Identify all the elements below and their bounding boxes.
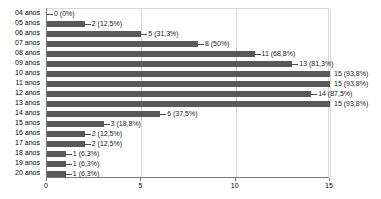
y-axis-label: 19 anos xyxy=(15,159,40,167)
bar xyxy=(47,101,330,107)
bar xyxy=(47,91,311,97)
bar-data-label: 15 (93,8%) xyxy=(333,100,368,108)
bar-row: 1 (6,3%) xyxy=(47,159,328,169)
bar xyxy=(47,171,66,177)
bar-row: 2 (12,5%) xyxy=(47,139,328,149)
bar xyxy=(47,141,85,147)
bar-row: 2 (12,5%) xyxy=(47,129,328,139)
bar xyxy=(47,61,292,67)
bar-data-label: 1 (6,3%) xyxy=(72,150,99,158)
y-axis-label: 18 anos xyxy=(15,149,40,157)
bar xyxy=(47,151,66,157)
y-axis-label: 16 anos xyxy=(15,129,40,137)
bar-data-label: 11 (68,8%) xyxy=(261,50,296,58)
y-axis-label: 08 anos xyxy=(15,49,40,57)
bar xyxy=(47,131,85,137)
bar-row: 0 (0%) xyxy=(47,9,328,19)
y-axis-label: 06 anos xyxy=(15,29,40,37)
bar xyxy=(47,161,66,167)
bar-data-label: 2 (12,5%) xyxy=(91,130,122,138)
bar-row: 14 (87,5%) xyxy=(47,89,328,99)
bar xyxy=(47,51,255,57)
y-axis-category-labels: 04 anos05 anos06 anos07 anos08 anos09 an… xyxy=(0,8,44,178)
bar-row: 1 (6,3%) xyxy=(47,169,328,179)
x-axis-tick-label: 10 xyxy=(231,181,239,190)
y-axis-label: 11 anos xyxy=(16,79,40,87)
bar-row: 15 (93,8%) xyxy=(47,69,328,79)
y-axis-label: 12 anos xyxy=(15,89,40,97)
y-axis-label: 04 anos xyxy=(15,9,40,17)
plot-area: 0 (0%)2 (12,5%)5 (31,3%)8 (50%)11 (68,8%… xyxy=(46,8,329,178)
bar-row: 5 (31,3%) xyxy=(47,29,328,39)
bar-data-label: 1 (6,3%) xyxy=(72,170,99,178)
bar-row: 15 (93,8%) xyxy=(47,99,328,109)
bar-data-label: 8 (50%) xyxy=(204,40,230,48)
x-axis-tick-label: 0 xyxy=(44,181,48,190)
x-axis-tick-label: 15 xyxy=(325,181,333,190)
bar-data-label: 6 (37,5%) xyxy=(166,110,197,118)
bar-row: 2 (12,5%) xyxy=(47,19,328,29)
y-axis-label: 13 anos xyxy=(15,99,40,107)
bar-data-label: 5 (31,3%) xyxy=(147,30,178,38)
bar-data-label: 15 (93,8%) xyxy=(333,70,368,78)
bar-data-label: 15 (93,8%) xyxy=(333,80,368,88)
bar-row: 15 (93,8%) xyxy=(47,79,328,89)
bar xyxy=(47,31,141,37)
bar xyxy=(47,81,330,87)
x-axis-tick-labels: 051015 xyxy=(0,181,381,195)
y-axis-label: 07 anos xyxy=(15,39,40,47)
y-axis-label: 14 anos xyxy=(15,109,40,117)
bar-data-label: 14 (87,5%) xyxy=(317,90,352,98)
bar-data-label: 3 (18,8%) xyxy=(110,120,141,128)
bar-row: 8 (50%) xyxy=(47,39,328,49)
y-axis-label: 17 anos xyxy=(15,139,40,147)
bar xyxy=(47,111,160,117)
bar-data-label: 2 (12,5%) xyxy=(91,20,122,28)
bar-row: 1 (6,3%) xyxy=(47,149,328,159)
y-axis-label: 20 anos xyxy=(15,169,40,177)
bar-row: 11 (68,8%) xyxy=(47,49,328,59)
bar xyxy=(47,121,104,127)
bar-rows: 0 (0%)2 (12,5%)5 (31,3%)8 (50%)11 (68,8%… xyxy=(47,9,328,177)
y-axis-label: 09 anos xyxy=(15,59,40,67)
bar-row: 13 (81,3%) xyxy=(47,59,328,69)
bar-row: 6 (37,5%) xyxy=(47,109,328,119)
y-axis-label: 05 anos xyxy=(15,19,40,27)
bar xyxy=(47,71,330,77)
bar-data-label: 13 (81,3%) xyxy=(298,60,333,68)
bar-row: 3 (18,8%) xyxy=(47,119,328,129)
bar xyxy=(47,41,198,47)
x-axis-tick-label: 5 xyxy=(138,181,142,190)
bar-data-label: 1 (6,3%) xyxy=(72,160,99,168)
y-axis-label: 15 anos xyxy=(15,119,40,127)
bar-data-label: 0 (0%) xyxy=(53,10,75,18)
y-axis-label: 10 anos xyxy=(15,69,40,77)
bar-chart: 04 anos05 anos06 anos07 anos08 anos09 an… xyxy=(0,0,381,199)
bar-data-label: 2 (12,5%) xyxy=(91,140,122,148)
bar xyxy=(47,21,85,27)
